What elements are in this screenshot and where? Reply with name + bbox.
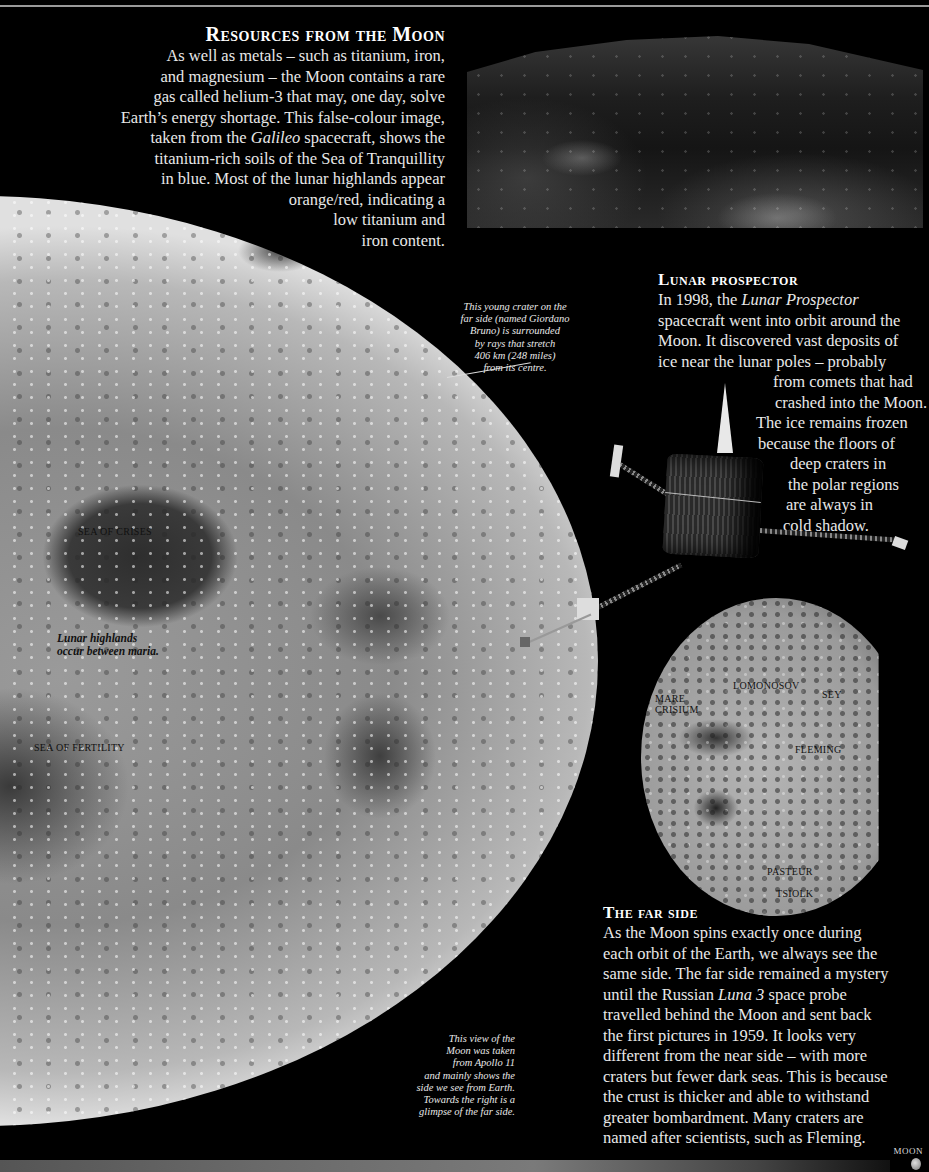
resources-heading: Resources from the Moon [15, 22, 445, 46]
folio-label: MOON [893, 1146, 923, 1156]
spacecraft-instrument [520, 637, 530, 647]
text-line: craters but fewer dark seas. This is bec… [603, 1067, 923, 1088]
footer-strip [0, 1160, 890, 1172]
prospector-heading: Lunar prospector [658, 270, 928, 290]
text-fragment: In 1998, the [658, 290, 741, 309]
caption-line: Moon was taken [395, 1045, 515, 1057]
text-line: ice near the lunar poles – probably [658, 352, 928, 373]
caption-line: by rays that stretch [442, 338, 588, 350]
text-fragment: space probe [764, 985, 846, 1004]
caption-line: glimpse of the far side. [395, 1106, 515, 1118]
highlands-label: Lunar highlands occur between maria. [57, 632, 159, 658]
text-line: titanium-rich soils of the Sea of Tranqu… [15, 149, 445, 170]
caption-line: side we see from Earth. [395, 1082, 515, 1094]
label-sea-of-crises: SEA OF CRISES [78, 526, 152, 537]
text-line: and magnesium – the Moon contains a rare [15, 67, 445, 88]
label-fleming: FLEMING [795, 744, 842, 755]
label-line: MARE [655, 693, 699, 704]
label-tsiolkovsky: TSIOLK [776, 888, 813, 899]
caption-line: and mainly shows the [395, 1070, 515, 1082]
text-line: spacecraft went into orbit around the [658, 311, 928, 332]
highlands-line: Lunar highlands [57, 632, 159, 645]
text-line: each orbit of the Earth, we always see t… [603, 944, 923, 965]
label-lomonosov: LOMONOSOV [733, 680, 800, 691]
apollo-caption: This view of the Moon was taken from Apo… [395, 1033, 515, 1118]
top-rule [0, 5, 929, 7]
text-fragment: spacecraft, shows the [300, 128, 445, 147]
spacecraft-antenna-icon [717, 383, 733, 453]
text-line: gas called helium-3 that may, one day, s… [15, 87, 445, 108]
caption-line: This young crater on the [442, 301, 588, 313]
text-line: As the Moon spins exactly once during [603, 923, 923, 944]
label-seyfert: SEY [822, 689, 842, 700]
label-sea-of-fertility: SEA OF FERTILITY [34, 742, 125, 753]
text-fragment: taken from the [150, 128, 250, 147]
farside-body: As the Moon spins exactly once during ea… [603, 923, 923, 1149]
text-line: because the floors of [658, 434, 928, 455]
farside-heading: The far side [603, 902, 923, 923]
text-line: until the Russian Luna 3 space probe [603, 985, 923, 1006]
text-line: named after scientists, such as Fleming. [603, 1128, 923, 1149]
text-line: The ice remains frozen [658, 413, 928, 434]
text-line: In 1998, the Lunar Prospector [658, 290, 928, 311]
text-line: crashed into the Moon. [658, 393, 928, 414]
spacecraft-instrument [610, 445, 623, 478]
far-side-section: The far side As the Moon spins exactly o… [603, 902, 923, 1149]
text-line: the first pictures in 1959. It looks ver… [603, 1026, 923, 1047]
text-line: Earth’s energy shortage. This false-colo… [15, 108, 445, 129]
highlands-line: occur between maria. [57, 645, 159, 658]
text-line: same side. The far side remained a myste… [603, 964, 923, 985]
spacecraft-instrument [892, 536, 909, 550]
luna3-emphasis: Luna 3 [718, 985, 764, 1004]
text-line: taken from the Galileo spacecraft, shows… [15, 128, 445, 149]
text-line: different from the near side – with more [603, 1046, 923, 1067]
text-line: the crust is thicker and able to withsta… [603, 1087, 923, 1108]
label-line: CRISIUM [655, 704, 699, 715]
bruno-caption: This young crater on the far side (named… [442, 301, 588, 374]
prospector-emphasis: Lunar Prospector [741, 290, 858, 309]
caption-line: from Apollo 11 [395, 1057, 515, 1069]
caption-line: Bruno) is surrounded [442, 325, 588, 337]
caption-line: 406 km (248 miles) [442, 350, 588, 362]
spacecraft-body [662, 454, 763, 559]
label-pasteur: PASTEUR [767, 866, 813, 877]
text-line: travelled behind the Moon and sent back [603, 1005, 923, 1026]
caption-line: Towards the right is a [395, 1094, 515, 1106]
galileo-false-colour-image [467, 28, 923, 228]
label-mare-crisium: MARE CRISIUM [655, 693, 699, 715]
text-fragment: until the Russian [603, 985, 718, 1004]
text-line: from comets that had [658, 372, 928, 393]
spacecraft-boom [591, 563, 682, 613]
text-line: Moon. It discovered vast deposits of [658, 331, 928, 352]
moon-icon [911, 1158, 921, 1170]
text-line: in blue. Most of the lunar highlands app… [15, 169, 445, 190]
galileo-emphasis: Galileo [251, 128, 301, 147]
text-line: As well as metals – such as titanium, ir… [15, 46, 445, 67]
text-line: greater bombardment. Many craters are [603, 1108, 923, 1129]
caption-line: This view of the [395, 1033, 515, 1045]
caption-line: far side (named Giordano [442, 313, 588, 325]
